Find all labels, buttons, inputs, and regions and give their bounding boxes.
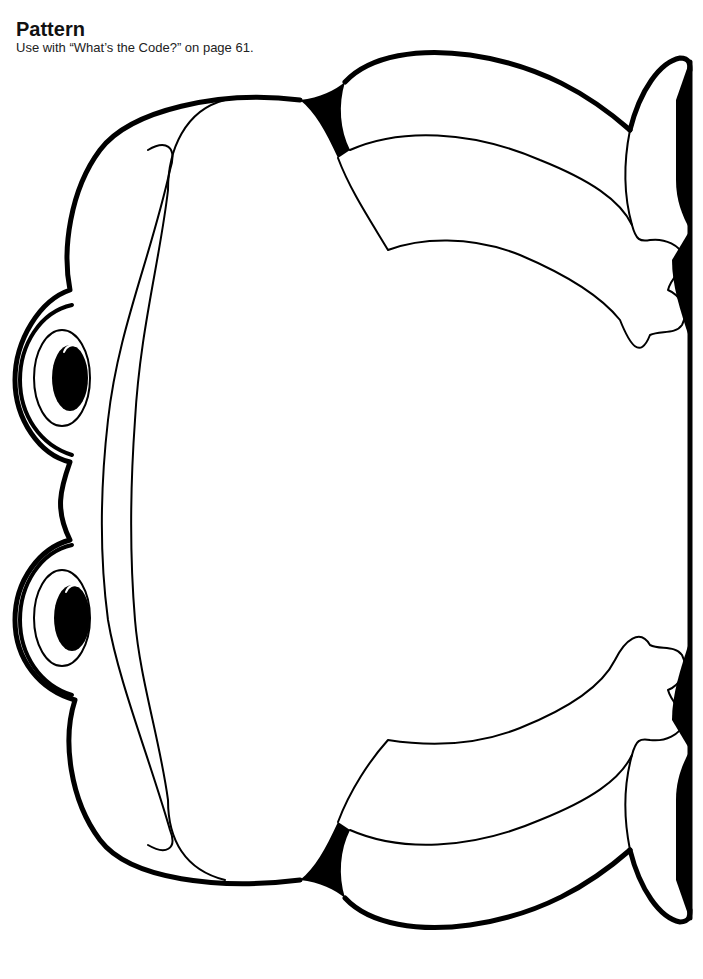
upper-thigh-outline [345, 52, 630, 130]
upper-thigh-inner [350, 135, 632, 225]
mouth-outer-line [102, 145, 172, 850]
shadow-shapes [300, 60, 690, 920]
lower-foot-inner [625, 755, 632, 850]
upper-arm [338, 158, 685, 348]
lower-thigh-inner [350, 755, 632, 845]
mouth-inner-line [131, 100, 225, 880]
lower-thigh-outline [345, 850, 630, 928]
eye-lower-pupil [54, 585, 90, 651]
frog-pattern-illustration [0, 0, 703, 979]
eye-upper-pupil [52, 345, 88, 411]
upper-foot-inner [625, 130, 632, 225]
lower-arm [338, 637, 685, 822]
